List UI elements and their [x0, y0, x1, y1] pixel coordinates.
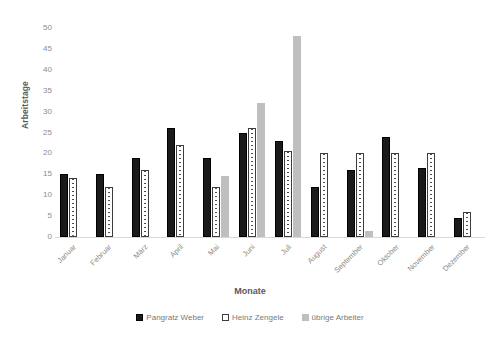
bar-chart: Arbeitstage 05101520253035404550 JanuarF…	[0, 0, 500, 341]
x-axis-tick: Januar	[55, 241, 79, 265]
bar-group	[270, 28, 306, 237]
bar[interactable]	[248, 128, 256, 237]
x-axis-tick-cell: Februar	[91, 238, 127, 284]
bar[interactable]	[463, 212, 471, 237]
legend-swatch-icon	[222, 314, 229, 321]
x-axis-tick-cell: März	[127, 238, 163, 284]
plot-area	[55, 28, 485, 237]
chart-legend: Pangratz WeberHeinz Zengeleübrige Arbeit…	[0, 313, 500, 322]
bar[interactable]	[105, 187, 113, 237]
y-axis-tick: 40	[22, 66, 52, 74]
legend-item[interactable]: Pangratz Weber	[136, 313, 204, 322]
bar-group	[377, 28, 413, 237]
bar-group	[91, 28, 127, 237]
bar[interactable]	[347, 170, 355, 237]
bar[interactable]	[212, 187, 220, 237]
y-axis-tick: 45	[22, 45, 52, 53]
bar-group	[234, 28, 270, 237]
x-axis-tick-cell: Juli	[270, 238, 306, 284]
x-axis-tick-cell: April	[162, 238, 198, 284]
x-axis-tick-labels: JanuarFebruarMärzAprilMaiJuniJuliAugustS…	[55, 238, 485, 284]
x-axis-tick: Februar	[89, 241, 115, 267]
x-axis-tick: März	[131, 241, 151, 261]
bar[interactable]	[239, 133, 247, 238]
x-axis-title: Monate	[0, 286, 500, 296]
bar-groups	[55, 28, 485, 237]
x-axis-tick: August	[306, 241, 330, 265]
y-axis-tick: 0	[22, 233, 52, 241]
x-axis-tick: Juli	[279, 241, 295, 257]
bar[interactable]	[311, 187, 319, 237]
x-axis-tick-cell: Juni	[234, 238, 270, 284]
legend-label: Heinz Zengele	[232, 313, 284, 322]
y-axis-tick: 35	[22, 87, 52, 95]
y-axis-tick: 25	[22, 129, 52, 137]
bar-group	[198, 28, 234, 237]
bar[interactable]	[60, 174, 68, 237]
bar[interactable]	[427, 153, 435, 237]
y-axis-tick: 50	[22, 24, 52, 32]
bar[interactable]	[203, 158, 211, 237]
bar[interactable]	[356, 153, 364, 237]
bar[interactable]	[382, 137, 390, 237]
x-axis-tick-cell: September	[342, 238, 378, 284]
bar[interactable]	[96, 174, 104, 237]
bar[interactable]	[69, 178, 77, 237]
bar[interactable]	[132, 158, 140, 237]
legend-swatch-icon	[302, 314, 309, 321]
x-axis-tick-cell: August	[306, 238, 342, 284]
y-axis-tick-labels: 05101520253035404550	[22, 28, 52, 237]
bar-group	[127, 28, 163, 237]
x-axis-tick: April	[168, 241, 186, 259]
y-axis-tick: 15	[22, 170, 52, 178]
bar[interactable]	[284, 151, 292, 237]
bar-group	[413, 28, 449, 237]
bar-group	[55, 28, 91, 237]
x-axis-tick-cell: Januar	[55, 238, 91, 284]
x-axis-tick: Mai	[206, 241, 222, 257]
bar-group	[342, 28, 378, 237]
legend-swatch-icon	[136, 314, 143, 321]
legend-item[interactable]: übrige Arbeiter	[302, 313, 364, 322]
bar[interactable]	[418, 168, 426, 237]
y-axis-tick: 5	[22, 212, 52, 220]
x-axis-tick-cell: Dezember	[449, 238, 485, 284]
y-axis-tick: 30	[22, 108, 52, 116]
x-axis-tick-cell: November	[413, 238, 449, 284]
legend-label: übrige Arbeiter	[312, 313, 364, 322]
x-axis-tick: Juni	[241, 241, 259, 259]
bar[interactable]	[141, 170, 149, 237]
y-axis-tick: 10	[22, 191, 52, 199]
bar-group	[306, 28, 342, 237]
legend-item[interactable]: Heinz Zengele	[222, 313, 284, 322]
bar[interactable]	[176, 145, 184, 237]
bar[interactable]	[221, 176, 229, 237]
bar-group	[449, 28, 485, 237]
bar-group	[162, 28, 198, 237]
bar[interactable]	[257, 103, 265, 237]
y-axis-tick: 20	[22, 149, 52, 157]
x-axis-tick-cell: Oktober	[377, 238, 413, 284]
bar[interactable]	[391, 153, 399, 237]
bar[interactable]	[275, 141, 283, 237]
x-axis-tick: Oktober	[375, 241, 402, 268]
bar[interactable]	[454, 218, 462, 237]
bar[interactable]	[320, 153, 328, 237]
x-axis-tick-cell: Mai	[198, 238, 234, 284]
bar[interactable]	[167, 128, 175, 237]
legend-label: Pangratz Weber	[146, 313, 204, 322]
bar[interactable]	[293, 36, 301, 237]
